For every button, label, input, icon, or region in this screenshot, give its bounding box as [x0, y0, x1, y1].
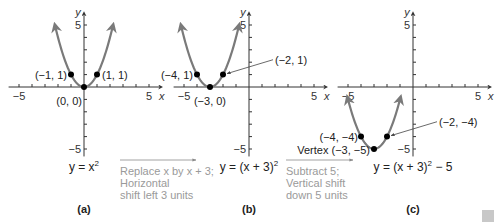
- y-tick-label-neg5: −5: [397, 143, 410, 155]
- y-tick-label-5: 5: [404, 19, 410, 31]
- panel-label-b: (b): [242, 203, 256, 215]
- point-label: (−2, 1): [275, 54, 307, 66]
- y-axis-name: y: [239, 6, 247, 18]
- transformation-note-line: down 5 units: [286, 189, 348, 201]
- transformation-note-line: shift left 3 units: [120, 189, 194, 201]
- transformation-note-line: Subtract 5;: [286, 165, 339, 177]
- y-axis-name: y: [403, 6, 411, 18]
- x-tick-label-5: 5: [475, 90, 481, 102]
- panel-label-a: (a): [77, 203, 91, 215]
- equation-label: y = x2: [69, 159, 100, 174]
- y-tick-label-neg5: −5: [233, 143, 246, 155]
- equation-exponent: 2: [274, 159, 279, 168]
- point-marker: [81, 84, 87, 90]
- equation-suffix: − 5: [432, 160, 453, 174]
- transformation-note-line: Horizontal: [120, 177, 170, 189]
- point-marker: [220, 72, 226, 78]
- point-marker: [68, 72, 74, 78]
- point-marker: [371, 146, 377, 152]
- point-label: (−4, −4): [319, 131, 358, 143]
- transformation-note-line: Replace x by x + 3;: [120, 165, 214, 177]
- point-marker: [384, 134, 390, 140]
- equation-exponent: 2: [95, 159, 100, 168]
- equation-label: y = (x + 3)2: [220, 159, 279, 174]
- y-tick-label-5: 5: [240, 19, 246, 31]
- panel-label-c: (c): [406, 203, 420, 215]
- x-tick-label-5: 5: [311, 90, 317, 102]
- y-tick-label-neg5: −5: [68, 143, 81, 155]
- y-axis-name: y: [74, 6, 82, 18]
- point-label: (−4, 1): [161, 69, 193, 81]
- transformation-note-line: Vertical shift: [286, 177, 345, 189]
- equation-main: y = (x + 3): [374, 160, 428, 174]
- x-axis-name: x: [158, 90, 165, 102]
- x-tick-label-neg5: −5: [13, 90, 26, 102]
- point-marker: [194, 72, 200, 78]
- point-label: (0, 0): [56, 95, 82, 107]
- point-label: (−2, −4): [439, 116, 478, 128]
- point-label: Vertex (−3, −5): [297, 144, 370, 156]
- equation-main: y = (x + 3): [220, 160, 274, 174]
- point-label: (−1, 1): [35, 69, 67, 81]
- x-tick-label-5: 5: [146, 90, 152, 102]
- point-marker: [94, 72, 100, 78]
- equation-main: y = x: [69, 160, 95, 174]
- point-label: (−3, 0): [194, 95, 226, 107]
- x-axis-name: x: [487, 90, 494, 102]
- x-axis-name: x: [323, 90, 330, 102]
- parabola-transformations-figure: −555−5xy(−1, 1)(1, 1)(0, 0)y = x2(a) −55…: [0, 0, 497, 224]
- point-marker: [207, 84, 213, 90]
- corner-mark: [482, 210, 494, 222]
- point-marker: [358, 134, 364, 140]
- equation-label: y = (x + 3)2 − 5: [374, 159, 453, 174]
- point-label: (1, 1): [102, 69, 128, 81]
- x-tick-label-neg5: −5: [178, 90, 191, 102]
- y-tick-label-5: 5: [75, 19, 81, 31]
